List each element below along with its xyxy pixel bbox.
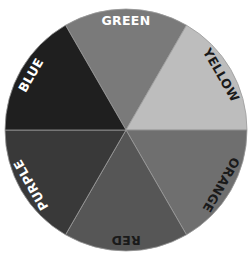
label-green: GREEN bbox=[102, 13, 151, 28]
wheel-segments bbox=[5, 9, 247, 251]
color-wheel: GREEN YELLOW ORANGE RED PURPLE BLUE bbox=[0, 0, 252, 262]
label-red: RED bbox=[111, 233, 140, 248]
